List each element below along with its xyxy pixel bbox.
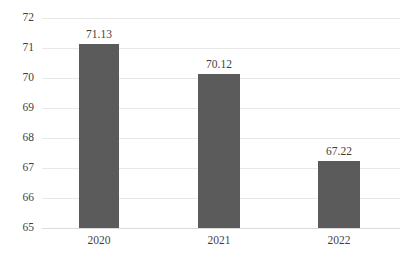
bar-2020 [79,44,119,228]
bar-value-label-2020: 71.13 [59,28,139,40]
x-axis-tick-label-2022: 2022 [299,234,379,246]
x-axis-tick-label-2020: 2020 [59,234,139,246]
y-axis-tick-label: 68 [4,132,34,144]
bar-value-label-2021: 70.12 [179,58,259,70]
y-axis-tick-label: 70 [4,72,34,84]
y-axis-tick-label: 67 [4,162,34,174]
y-axis-tick-label: 66 [4,192,34,204]
y-axis-tick-label: 65 [4,222,34,234]
bar-2021 [198,74,240,228]
axis-baseline [42,228,400,229]
bar-chart: 72 71 70 69 68 67 66 65 71.13 70.12 67.2… [0,0,413,265]
y-axis-tick-label: 71 [4,42,34,54]
bar-value-label-2022: 67.22 [299,145,379,157]
gridline [42,18,400,19]
x-axis-tick-label-2021: 2021 [179,234,259,246]
y-axis-tick-label: 69 [4,102,34,114]
bar-2022 [318,161,360,228]
y-axis-tick-label: 72 [4,12,34,24]
plot-area [42,18,400,228]
